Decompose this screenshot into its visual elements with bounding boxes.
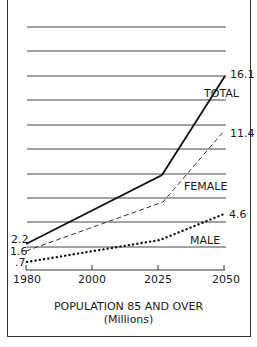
- label-male: MALE: [190, 235, 220, 246]
- x-tick-2025: 2025: [144, 274, 172, 285]
- label-total: TOTAL: [204, 88, 239, 99]
- chart-plot: [0, 0, 257, 347]
- label-male-start: .7: [15, 257, 26, 268]
- x-tick-1980: 1980: [13, 274, 41, 285]
- x-tick-2000: 2000: [78, 274, 106, 285]
- x-tick-2050: 2050: [212, 274, 240, 285]
- label-female-end: 11.4: [230, 128, 255, 139]
- label-male-end: 4.6: [229, 209, 247, 220]
- x-axis: [26, 265, 225, 270]
- chart-title: POPULATION 85 AND OVER: [0, 300, 257, 313]
- gridlines: [27, 27, 226, 247]
- chart-units: (Millions): [0, 313, 257, 326]
- label-female: FEMALE: [184, 181, 227, 192]
- label-total-start: 2.2: [11, 234, 29, 245]
- series-total-line: [26, 76, 225, 244]
- label-total-end: 16.1: [230, 69, 255, 80]
